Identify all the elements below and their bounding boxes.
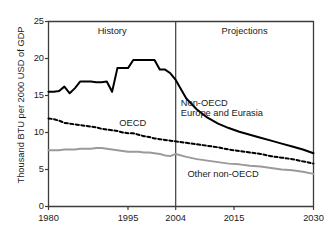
x-tick-label-2030: 2030 — [294, 213, 334, 223]
y-tick-label-10: 10 — [14, 127, 44, 137]
y-tick-label-25: 25 — [14, 16, 44, 26]
x-tick-label-2015: 2015 — [214, 213, 254, 223]
y-tick-label-15: 15 — [14, 90, 44, 100]
series-label-other-non-oecd: Other non-OECD — [187, 169, 258, 180]
x-tick-label-1980: 1980 — [29, 213, 69, 223]
y-tick-label-20: 20 — [14, 53, 44, 63]
x-tick-label-2004: 2004 — [156, 213, 196, 223]
y-tick-label-0: 0 — [14, 201, 44, 211]
x-tick-label-1995: 1995 — [108, 213, 148, 223]
series-label-line2: Europe and Eurasia — [181, 108, 263, 118]
chart-container: Thousand BTU per 2000 USD of GDP 25 20 1… — [0, 0, 334, 237]
series-label-non-oecd-europe-eurasia: Non-OECD Europe and Eurasia — [181, 98, 263, 119]
history-region-label: History — [72, 26, 152, 36]
series-label-oecd: OECD — [119, 118, 146, 129]
y-tick-label-5: 5 — [14, 164, 44, 174]
series-label-line1: Non-OECD — [181, 98, 228, 108]
projections-region-label: Projections — [200, 26, 290, 36]
